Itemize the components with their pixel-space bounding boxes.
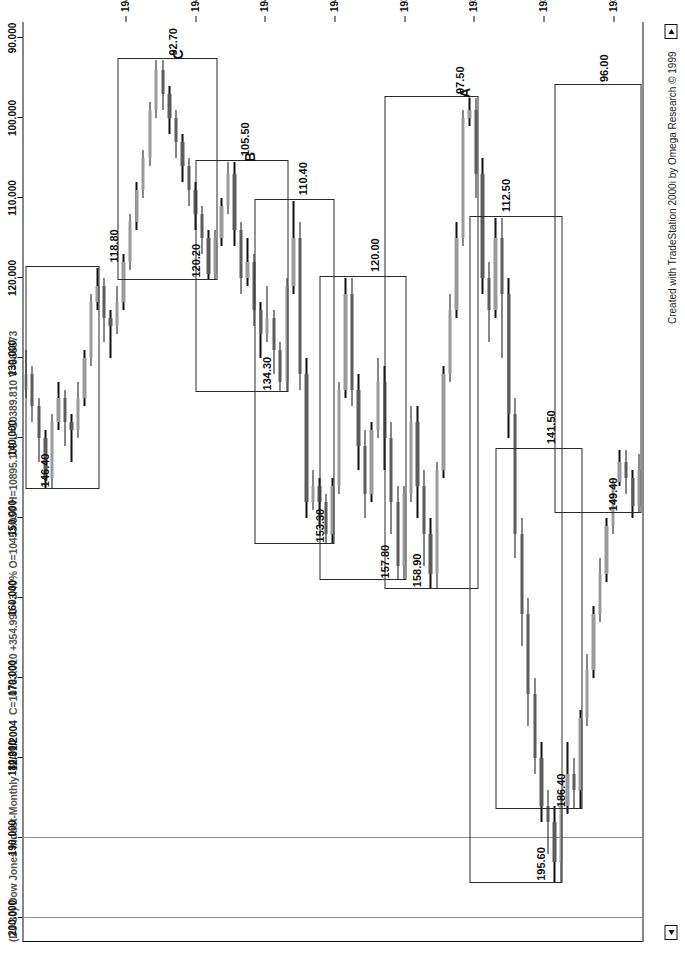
swing-price-label: 158.90 (410, 554, 422, 588)
rotated-chart-canvas: (DJ-30) Dow Jones Indust-Monthly 12/31/2… (0, 0, 685, 964)
price-tick-label: 190.000 (6, 820, 17, 856)
bar-body (604, 526, 607, 574)
price-tick-label: 90.000 (6, 23, 17, 54)
swing-price-label: 96.00 (597, 54, 609, 82)
date-tick (543, 16, 544, 22)
price-tick-label: 100.000 (6, 100, 17, 136)
wave-letter-label: C (169, 49, 185, 59)
date-tick (613, 16, 614, 22)
price-tick-label: 120.000 (6, 260, 17, 296)
candlestick-bar (604, 518, 607, 582)
price-gridline (22, 917, 642, 918)
bar-body (598, 574, 601, 614)
price-tick-label: 140.000 (6, 420, 17, 456)
bar-body (108, 318, 111, 326)
swing-price-label: 120.00 (368, 238, 380, 272)
date-tick-label: 1937 (537, 0, 548, 12)
price-tick (17, 37, 22, 38)
date-tick (404, 16, 405, 22)
candlestick-bar (102, 278, 105, 342)
date-tick-label: 1939 (398, 0, 409, 12)
swing-price-label: 157.80 (378, 545, 390, 579)
candlestick-bar (108, 310, 111, 358)
price-tick (17, 437, 22, 438)
bar-body (102, 286, 105, 318)
price-tick (17, 117, 22, 118)
date-tick (264, 16, 265, 22)
price-tick (17, 597, 22, 598)
candlestick-bar (585, 654, 588, 726)
scroll-left-button[interactable] (664, 925, 677, 940)
date-tick-label: 1938 (468, 0, 479, 12)
date-tick-label: 1942 (189, 0, 200, 12)
price-tick-label: 160.000 (6, 580, 17, 616)
price-tick-label: 180.000 (6, 740, 17, 776)
chart-screenshot: (DJ-30) Dow Jones Indust-Monthly 12/31/2… (0, 0, 685, 964)
price-tick (17, 357, 22, 358)
price-tick (17, 677, 22, 678)
swing-price-label: 112.50 (499, 179, 511, 212)
date-tick (195, 16, 196, 22)
price-tick (17, 197, 22, 198)
swing-price-label: 153.30 (313, 509, 325, 543)
pattern-box-1943 (25, 266, 99, 489)
price-tick (17, 837, 22, 838)
swing-price-label: 149.40 (606, 478, 618, 512)
pattern-box-1942-43 (117, 58, 217, 280)
plot-left-border (22, 941, 642, 942)
candlestick-bar (115, 286, 118, 334)
price-tick (17, 277, 22, 278)
price-tick (17, 517, 22, 518)
price-tick-label: 200.000 (6, 900, 17, 936)
date-tick (473, 16, 474, 22)
date-tick-label: 1936 (607, 0, 618, 12)
pattern-box-1937-38 (469, 216, 562, 883)
credit-label: Created with TradeStation 2000i by Omega… (666, 51, 677, 324)
swing-price-label: 118.80 (107, 229, 119, 262)
date-tick-label: 1943 (119, 0, 130, 12)
swing-price-label: 186.40 (554, 774, 566, 808)
price-tick (17, 757, 22, 758)
date-tick-label: 1941 (259, 0, 270, 12)
swing-price-label: 134.30 (260, 357, 272, 391)
bar-body (591, 614, 594, 670)
scroll-right-button[interactable] (664, 24, 677, 39)
bar-body (115, 302, 118, 326)
plot-bottom-border (642, 22, 643, 942)
candlestick-bar (591, 606, 594, 678)
swing-price-label: 146.40 (38, 454, 50, 488)
price-tick (17, 917, 22, 918)
price-tick-label: 170.000 (6, 660, 17, 696)
swing-price-label: 141.50 (544, 410, 556, 444)
wave-letter-label: A (456, 88, 472, 98)
swing-price-label: 195.60 (534, 847, 546, 881)
price-tick-label: 110.000 (6, 180, 17, 216)
bar-body (585, 670, 588, 718)
date-tick-label: 1940 (328, 0, 339, 12)
price-tick-label: 130.000 (6, 340, 17, 376)
swing-price-label: 120.20 (189, 244, 201, 278)
chart-area: (DJ-30) Dow Jones Indust-Monthly 12/31/2… (0, 0, 685, 964)
plot-top-border (22, 22, 23, 942)
candlestick-bar (598, 558, 601, 622)
date-tick (334, 16, 335, 22)
date-tick (125, 16, 126, 22)
wave-letter-label: B (241, 152, 257, 162)
swing-price-label: 110.40 (296, 162, 308, 195)
price-tick-label: 150.000 (6, 500, 17, 536)
